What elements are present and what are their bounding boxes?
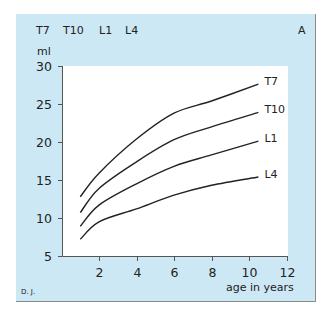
line-chart: 5101520253024681012T7T10L1L4: [0, 0, 328, 314]
x-tick-label: 12: [280, 265, 296, 280]
series-end-label-l1: L1: [264, 132, 277, 145]
y-tick-label: 20: [36, 135, 52, 150]
x-tick-label: 8: [209, 265, 217, 280]
y-tick-label: 15: [36, 173, 52, 188]
x-axis-label: age in years: [226, 282, 294, 294]
series-end-label-l4: L4: [264, 168, 277, 181]
series-end-label-t7: T7: [263, 75, 278, 88]
y-tick-label: 30: [36, 59, 52, 74]
y-tick-label: 5: [44, 249, 52, 264]
series-end-label-t10: T10: [263, 103, 285, 116]
plot-area: [63, 66, 288, 256]
y-tick-label: 10: [36, 211, 52, 226]
x-tick-label: 2: [96, 265, 104, 280]
credit-text: D. J.: [21, 288, 35, 296]
x-tick-label: 6: [171, 265, 179, 280]
x-tick-label: 10: [242, 265, 258, 280]
x-tick-label: 4: [134, 265, 142, 280]
y-tick-label: 25: [36, 97, 52, 112]
